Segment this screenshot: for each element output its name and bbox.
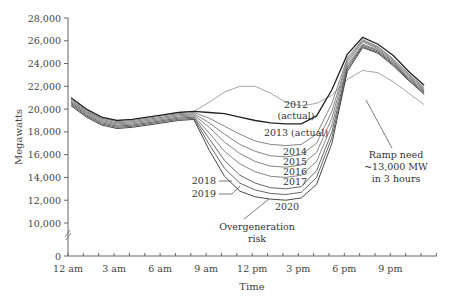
x-tick-label: 6 am (148, 263, 172, 274)
y-ticks: 010,00012,00014,00016,00018,00020,00022,… (28, 13, 68, 262)
label-2013: 2013 (actual) (264, 127, 328, 138)
y-tick-label: 28,000 (28, 13, 61, 24)
label-2012: 2012 (284, 99, 308, 110)
y-tick-label: 0 (55, 251, 61, 262)
y-tick-label: 26,000 (28, 35, 61, 46)
ramp-label-1: Ramp need (369, 149, 424, 160)
y-tick-label: 10,000 (28, 218, 61, 229)
overgen-label-2: risk (248, 233, 266, 244)
ramp-label-3: in 3 hours (372, 173, 421, 184)
x-tick-label: 9 am (194, 263, 218, 274)
x-tick-label: 3 am (102, 263, 126, 274)
label-2019: 2019 (192, 188, 216, 199)
ramp-pointer (366, 100, 392, 148)
label-2018: 2018 (192, 175, 216, 186)
series-line-2012 (71, 70, 424, 120)
leader-2019 (219, 186, 240, 194)
y-tick-label: 14,000 (28, 172, 61, 183)
label-2012-sub: (actual) (277, 110, 314, 121)
y-tick-label: 12,000 (28, 195, 61, 206)
y-tick-label: 16,000 (28, 149, 61, 160)
series-line-2014 (71, 40, 424, 146)
series-line-2015 (71, 41, 424, 157)
ramp-label-2: ~13,000 MW (364, 161, 428, 172)
x-tick-label: 9 pm (378, 263, 402, 274)
x-tick-label: 3 pm (286, 263, 310, 274)
duck-curve-chart: 010,00012,00014,00016,00018,00020,00022,… (0, 0, 464, 304)
overgen-pointer (244, 199, 269, 219)
x-tick-label: 6 pm (332, 263, 356, 274)
y-tick-label: 18,000 (28, 126, 61, 137)
label-2017: 2017 (283, 176, 307, 187)
y-tick-label: 22,000 (28, 81, 61, 92)
overgen-label-1: Overgeneration (219, 221, 295, 232)
x-tick-label: 12 pm (237, 263, 267, 274)
x-axis-title: Time (239, 281, 264, 292)
label-2020: 2020 (275, 201, 299, 212)
x-tick-label: 12 am (53, 263, 83, 274)
y-tick-label: 20,000 (28, 104, 61, 115)
y-axis-title: Megawatts (13, 109, 24, 165)
y-tick-label: 24,000 (28, 58, 61, 69)
